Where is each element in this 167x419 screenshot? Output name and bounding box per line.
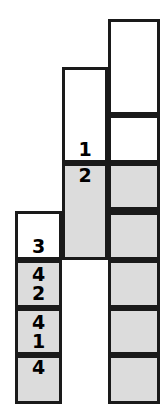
- left-cell-4[interactable]: 4: [15, 355, 62, 404]
- right-cell-6[interactable]: [108, 308, 160, 355]
- left-cell-3-labels: 4 1: [18, 311, 59, 352]
- left-cell-3[interactable]: 4 1: [15, 308, 62, 355]
- right-cell-7[interactable]: [108, 355, 160, 404]
- middle-cell-1[interactable]: 1: [62, 67, 108, 163]
- left-cell-3-label-top: 4: [32, 313, 45, 332]
- right-cell-4[interactable]: [108, 210, 160, 260]
- right-cell-2[interactable]: [108, 115, 160, 163]
- left-cell-4-label: 4: [32, 358, 45, 377]
- left-column: 3 4 2 4 1 4: [15, 211, 62, 404]
- left-cell-3-label-bottom: 1: [32, 332, 45, 351]
- left-cell-2[interactable]: 4 2: [15, 260, 62, 308]
- right-column: [108, 19, 160, 404]
- left-cell-1-label: 3: [32, 237, 45, 256]
- left-cell-2-labels: 4 2: [18, 263, 59, 305]
- right-cell-1[interactable]: [108, 19, 160, 115]
- right-cell-3[interactable]: [108, 163, 160, 210]
- left-cell-1[interactable]: 3: [15, 211, 62, 260]
- left-cell-2-label-bottom: 2: [32, 284, 45, 303]
- figure-canvas: 3 4 2 4 1 4 1 2: [0, 0, 167, 419]
- middle-column: 1 2: [62, 67, 108, 260]
- middle-cell-2-label: 2: [78, 166, 91, 185]
- middle-cell-1-label: 1: [78, 140, 91, 159]
- right-cell-5[interactable]: [108, 260, 160, 308]
- middle-cell-2[interactable]: 2: [62, 163, 108, 260]
